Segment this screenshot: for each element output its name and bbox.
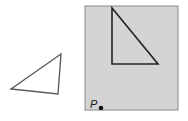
point-p-label: P bbox=[90, 98, 98, 110]
diagram-canvas: P bbox=[0, 0, 188, 121]
left-triangle bbox=[11, 54, 61, 94]
gray-panel bbox=[85, 6, 178, 110]
point-p-dot bbox=[99, 106, 104, 111]
